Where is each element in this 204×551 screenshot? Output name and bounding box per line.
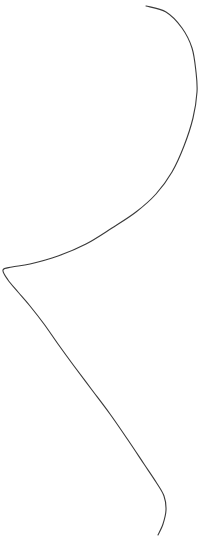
s-curve-path <box>3 6 197 535</box>
curve-plot-area <box>0 0 204 551</box>
figure-canvas <box>0 0 204 551</box>
